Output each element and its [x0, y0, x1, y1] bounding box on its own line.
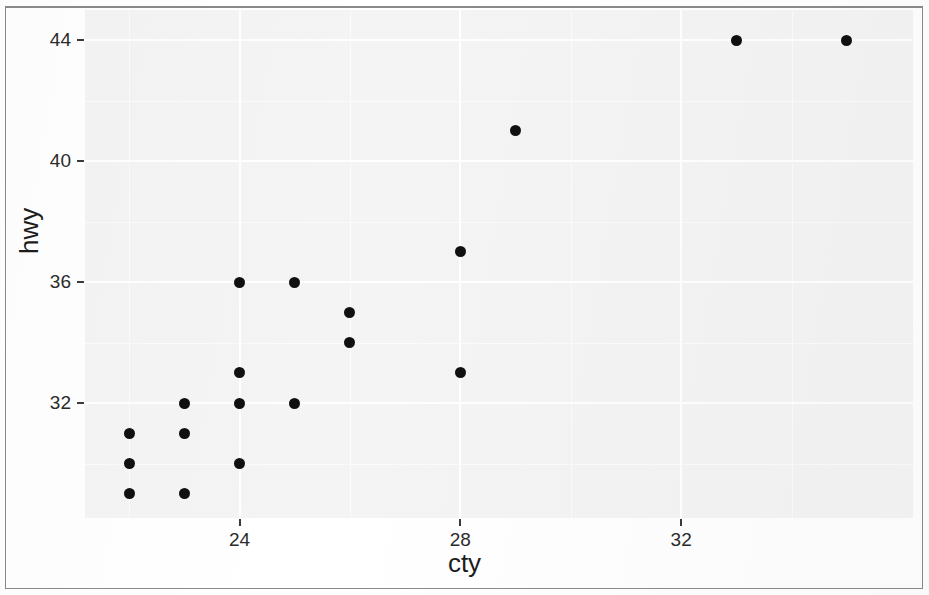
data-point	[841, 35, 852, 46]
data-point	[731, 35, 742, 46]
y-tick-mark	[77, 39, 84, 41]
data-point	[510, 125, 521, 136]
gridline-major-horizontal	[85, 281, 913, 283]
data-point	[455, 367, 466, 378]
y-tick-mark	[77, 281, 84, 283]
x-tick-mark	[459, 519, 461, 526]
data-point	[234, 398, 245, 409]
gridline-major-horizontal	[85, 39, 913, 41]
gridline-minor-vertical	[571, 10, 572, 518]
data-point	[179, 488, 190, 499]
gridline-major-horizontal	[85, 160, 913, 162]
data-point	[344, 307, 355, 318]
plot-area: 32364044 242832 hwy cty	[0, 0, 929, 595]
scatter-plot-figure: 32364044 242832 hwy cty	[0, 0, 929, 595]
data-point	[234, 277, 245, 288]
gridline-major-vertical	[239, 10, 241, 518]
data-point	[289, 277, 300, 288]
plot-panel	[85, 10, 913, 518]
data-point	[344, 337, 355, 348]
y-tick-label: 36	[50, 271, 71, 293]
gridline-major-vertical	[459, 10, 461, 518]
gridline-minor-vertical	[792, 10, 793, 518]
data-point	[289, 398, 300, 409]
gridline-major-vertical	[680, 10, 682, 518]
data-point	[179, 428, 190, 439]
y-tick-mark	[77, 402, 84, 404]
data-point	[234, 367, 245, 378]
gridline-major-horizontal	[85, 402, 913, 404]
gridline-minor-horizontal	[85, 222, 913, 223]
y-tick-label: 32	[50, 392, 71, 414]
data-point	[124, 428, 135, 439]
x-axis-title: cty	[0, 548, 929, 579]
y-axis-title: hwy	[14, 208, 45, 254]
y-tick-mark	[77, 160, 84, 162]
x-tick-mark	[239, 519, 241, 526]
data-point	[234, 458, 245, 469]
y-tick-label: 44	[50, 29, 71, 51]
data-point	[179, 398, 190, 409]
x-tick-mark	[680, 519, 682, 526]
y-tick-label: 40	[50, 150, 71, 172]
gridline-minor-vertical	[350, 10, 351, 518]
gridline-minor-horizontal	[85, 101, 913, 102]
data-point	[124, 488, 135, 499]
gridline-minor-horizontal	[85, 343, 913, 344]
data-point	[455, 246, 466, 257]
data-point	[124, 458, 135, 469]
gridline-minor-horizontal	[85, 464, 913, 465]
gridline-minor-vertical	[129, 10, 130, 518]
